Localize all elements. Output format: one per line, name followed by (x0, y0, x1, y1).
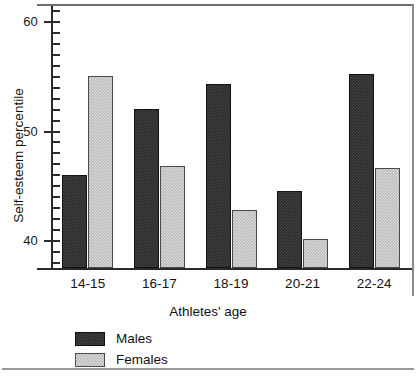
legend-item-females: Females (75, 349, 168, 370)
figure-bar-chart: 605040 14-1516-1718-1920-2122-24 Athlete… (0, 0, 416, 386)
legend-label-females: Females (116, 352, 168, 367)
x-axis-title: Athletes' age (0, 304, 416, 319)
x-axis-category-label: 22-24 (334, 276, 414, 291)
bar-males-18-19 (206, 84, 231, 268)
bar-females-16-17 (160, 166, 185, 268)
legend-item-males: Males (75, 328, 168, 349)
x-axis-category-label: 16-17 (119, 276, 199, 291)
bar-females-18-19 (232, 210, 257, 268)
y-axis-tick-label: 60 (12, 14, 38, 29)
y-axis-title: Self-esteem percentile (11, 46, 26, 266)
bar-males-14-15 (62, 175, 87, 268)
bar-females-14-15 (88, 76, 113, 268)
figure-frame-right-border (412, 4, 414, 296)
bar-males-22-24 (349, 74, 374, 268)
legend-swatch-males-icon (75, 332, 105, 346)
x-axis-category-label: 18-19 (191, 276, 271, 291)
x-axis-category-label: 14-15 (48, 276, 128, 291)
plot-area (52, 6, 410, 268)
chart-legend: Males Females (75, 328, 168, 370)
figure-frame-bottom-border (2, 368, 414, 370)
legend-swatch-females-icon (75, 353, 105, 367)
bar-females-22-24 (375, 168, 400, 268)
x-axis-line (37, 268, 412, 270)
bar-females-20-21 (303, 239, 328, 268)
bar-males-16-17 (134, 109, 159, 268)
bar-males-20-21 (277, 191, 302, 269)
x-axis-category-label: 20-21 (263, 276, 343, 291)
legend-label-males: Males (116, 331, 152, 346)
